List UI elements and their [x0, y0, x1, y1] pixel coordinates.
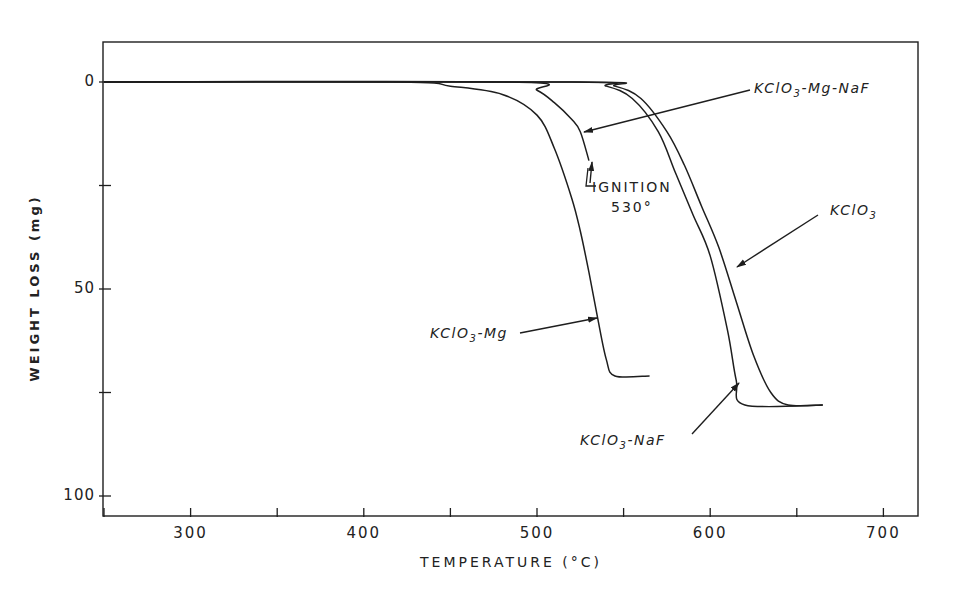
arrow-kclo3 — [737, 215, 818, 267]
label-text: KClO — [754, 80, 794, 96]
label-sub: 3 — [870, 210, 878, 221]
label-kclo3: KClO3 — [830, 202, 877, 221]
arrow-kclo3-mg — [520, 318, 597, 333]
curve-kclo3 — [104, 82, 823, 406]
label-kclo3-mg-naf: KClO3-Mg-NaF — [754, 80, 870, 99]
x-axis-title: TEMPERATURE (°C) — [420, 554, 602, 570]
label-text: KClO — [580, 432, 620, 448]
arrow-kclo3-mg-naf — [584, 90, 750, 132]
curve-kclo3-mg — [104, 82, 650, 377]
label-kclo3-mg: KClO3-Mg — [430, 325, 508, 344]
arrow-kclo3-naf — [692, 383, 739, 434]
ignition-annotation: IGNITION 530° — [592, 177, 672, 217]
y-axis-title: WEIGHT LOSS (mg) — [27, 194, 42, 381]
x-tick-label: 700 — [866, 524, 901, 542]
ignition-temperature: 530° — [592, 197, 672, 217]
label-text: KClO — [830, 202, 870, 218]
label-text: -NaF — [627, 432, 665, 448]
data-curves — [104, 81, 823, 406]
plot-border — [103, 42, 918, 516]
x-tick-label: 600 — [693, 524, 728, 542]
y-tick-label: 0 — [45, 72, 95, 90]
y-tick-label: 50 — [45, 279, 95, 297]
y-tick-label: 100 — [45, 486, 95, 504]
label-text: -Mg-NaF — [801, 80, 870, 96]
curve-kclo3-mg-naf — [104, 81, 589, 160]
plot-frame — [103, 42, 918, 516]
x-tick-label: 300 — [173, 524, 208, 542]
label-arrows — [520, 90, 818, 434]
label-text: KClO — [430, 325, 470, 341]
x-tick-label: 400 — [346, 524, 381, 542]
label-kclo3-naf: KClO3-NaF — [580, 432, 666, 451]
curve-kclo3-naf — [104, 82, 823, 407]
ignition-label: IGNITION — [592, 177, 672, 197]
label-text: -Mg — [477, 325, 508, 341]
x-tick-label: 500 — [520, 524, 555, 542]
axis-ticks — [99, 82, 883, 517]
